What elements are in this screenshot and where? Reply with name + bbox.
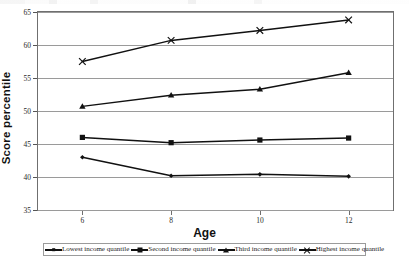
y-axis-tick-label: 55 [15, 74, 31, 83]
square-marker [169, 140, 174, 145]
triangle-marker [345, 70, 351, 75]
legend-sample [218, 245, 235, 254]
square-marker [137, 247, 142, 252]
y-axis-tick-label: 35 [15, 206, 31, 215]
x-axis-tick-mark [82, 211, 83, 215]
diamond-marker [52, 248, 56, 252]
series-line [82, 20, 348, 62]
series-line [82, 157, 348, 176]
triangle-marker [223, 247, 229, 252]
x-axis-tick-mark [260, 211, 261, 215]
legend-label: Highest income quantile [316, 246, 384, 253]
x-axis-tick-label: 10 [256, 216, 264, 225]
legend-sample [45, 245, 62, 254]
y-axis-title-label: Score percentile [0, 72, 12, 165]
y-axis-tick-label: 50 [15, 107, 31, 116]
legend-item: Highest income quantile [298, 244, 385, 255]
chart-legend: Lowest income quantileSecond income quan… [43, 243, 366, 256]
series-triangle [79, 70, 352, 109]
chart-figure: Score percentile 35404550556065 681012 A… [0, 0, 409, 260]
x-marker [303, 246, 311, 254]
x-axis-title: Age [0, 226, 409, 240]
square-marker [80, 135, 85, 140]
legend-label: Second income quantile [148, 246, 215, 253]
legend-label: Lowest income quantile [62, 246, 129, 253]
data-series-layer [38, 12, 393, 210]
plot-area [37, 11, 394, 211]
series-line [82, 73, 348, 107]
y-axis-tick-label: 45 [15, 140, 31, 149]
x-axis-tick-mark [171, 211, 172, 215]
legend-label: Third income quantile [235, 246, 297, 253]
legend-sample [299, 245, 316, 254]
series-line [82, 137, 348, 142]
legend-sample [131, 245, 148, 254]
x-axis-tick-label: 12 [345, 216, 353, 225]
series-diamond [80, 155, 351, 179]
square-marker [346, 135, 351, 140]
series-x [79, 17, 352, 65]
y-axis-tick-label: 40 [15, 173, 31, 182]
y-axis-tick-label: 60 [15, 41, 31, 50]
legend-item: Lowest income quantile [44, 244, 130, 255]
legend-item: Third income quantile [217, 244, 298, 255]
x-axis-tick-label: 8 [169, 216, 173, 225]
y-axis-title: Score percentile [0, 58, 13, 178]
scan-artifact-strip [0, 0, 409, 4]
gridline [38, 210, 393, 211]
square-marker [257, 137, 262, 142]
y-axis-tick-label: 65 [15, 8, 31, 17]
x-axis-tick-mark [349, 211, 350, 215]
diamond-marker [80, 155, 85, 160]
diamond-marker [169, 173, 174, 178]
legend-item: Second income quantile [130, 244, 216, 255]
x-axis-tick-label: 6 [81, 216, 85, 225]
series-square [80, 135, 351, 145]
diamond-marker [346, 174, 351, 179]
diamond-marker [258, 172, 263, 177]
